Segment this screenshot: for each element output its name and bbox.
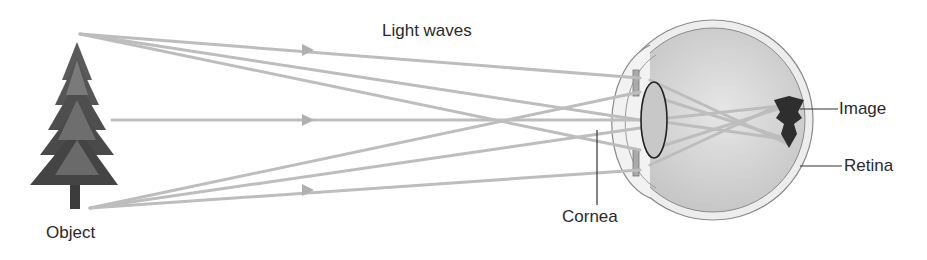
diagram-title: Light waves xyxy=(382,22,472,39)
object-label: Object xyxy=(46,224,95,241)
image-label: Image xyxy=(839,100,886,117)
cornea-label: Cornea xyxy=(562,208,618,225)
ray-arrowheads xyxy=(302,44,314,196)
tree-object-icon xyxy=(30,42,118,209)
retina-label: Retina xyxy=(844,157,893,174)
lens xyxy=(641,82,667,158)
